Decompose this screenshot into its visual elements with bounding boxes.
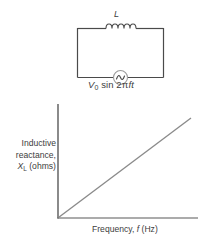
plot-x-axis-label: Frequency, f (Hz): [92, 225, 158, 235]
source-label-rest: sin 2: [98, 79, 121, 90]
y-axis-label-line3: XL (ohms): [6, 161, 56, 175]
inductive-reactance-figure: [0, 0, 198, 241]
inductor-coil-icon: [106, 24, 136, 29]
y-axis-label-line1: Inductive: [6, 138, 56, 150]
y-axis-units: (ohms): [27, 161, 56, 171]
circuit-diagram: [78, 24, 164, 85]
ac-source-label: V0 sin 2πft: [88, 80, 134, 92]
plot-data-line: [59, 118, 192, 218]
source-label-t: t: [131, 79, 134, 90]
y-axis-label-line2: reactance,: [6, 150, 56, 162]
reactance-plot: [57, 104, 198, 219]
plot-y-axis-label: Inductive reactance, XL (ohms): [6, 138, 56, 175]
x-axis-label-text: Frequency,: [92, 224, 137, 234]
x-axis-units: (Hz): [139, 224, 158, 234]
inductor-label: L: [114, 9, 119, 19]
